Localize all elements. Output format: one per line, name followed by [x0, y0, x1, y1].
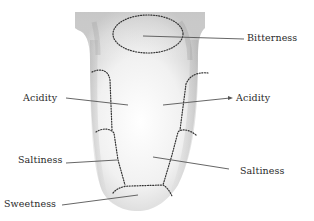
label-saltiness-left: Saltiness	[18, 155, 62, 165]
acidity-right-arrow-icon	[228, 96, 233, 100]
label-saltiness-right: Saltiness	[240, 166, 284, 176]
label-acidity-right: Acidity	[236, 93, 270, 103]
label-acidity-left: Acidity	[23, 93, 57, 103]
label-bitterness: Bitterness	[247, 33, 297, 43]
label-sweetness: Sweetness	[4, 199, 56, 209]
tongue-shape	[75, 12, 205, 211]
